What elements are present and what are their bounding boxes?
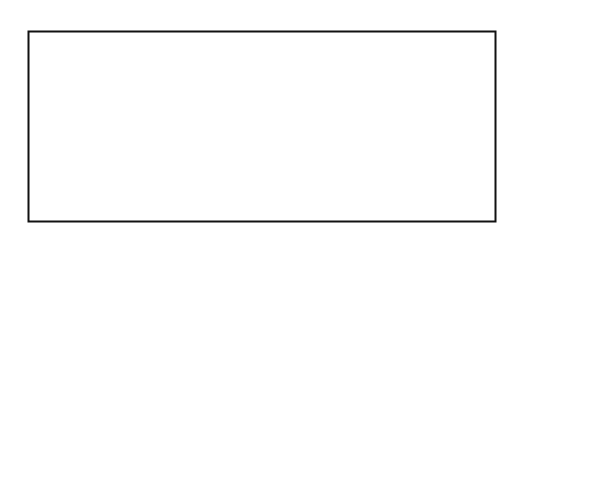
figure-outer-frame <box>29 32 496 222</box>
diagram-drawing <box>0 0 590 500</box>
